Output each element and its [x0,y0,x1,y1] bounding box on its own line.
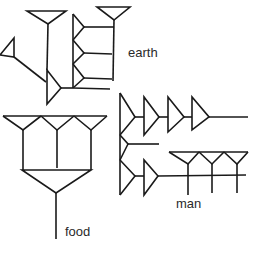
label-food: food [65,225,90,238]
label-man: man [176,197,201,210]
earth-sign [0,7,130,104]
food-sign [3,116,107,239]
sign-diagram [0,0,254,257]
man-sign [120,93,248,195]
label-earth: earth [128,46,158,59]
